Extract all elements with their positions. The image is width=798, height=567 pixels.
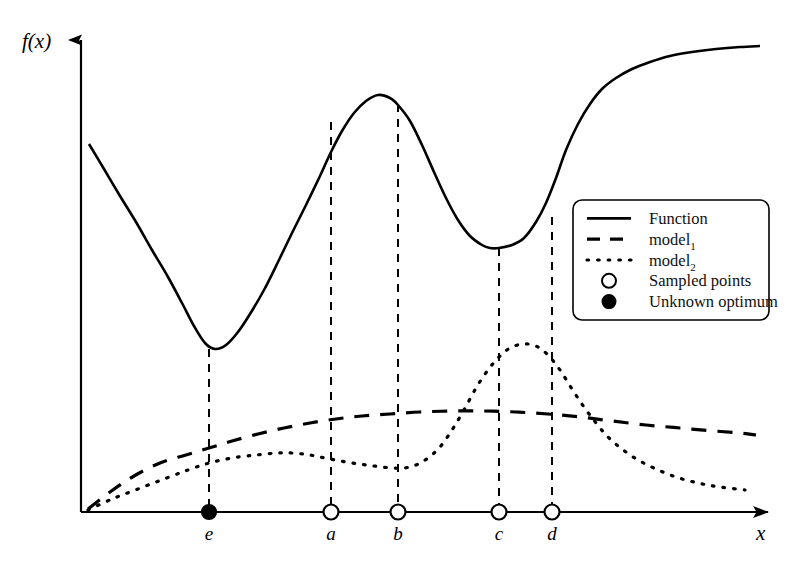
tick-label-c: c	[495, 523, 504, 544]
legend-label: Function	[649, 209, 708, 228]
legend-box: Functionmodel1model2Sampled pointsUnknow…	[573, 200, 778, 320]
curve-model1	[88, 411, 756, 509]
legend-label: Unknown optimum	[649, 292, 778, 311]
tick-label-b: b	[393, 523, 403, 544]
function-plot: eabcd f(x) x Functionmodel1model2Sampled…	[0, 0, 798, 567]
legend-label: model1	[649, 230, 696, 252]
marker-d[interactable]	[545, 505, 560, 520]
y-axis-label: f(x)	[22, 29, 51, 53]
marker-a[interactable]	[324, 505, 339, 520]
legend-label-subscript: 1	[690, 240, 696, 252]
legend-label: Sampled points	[649, 271, 751, 290]
legend-swatch-open-circle	[602, 274, 616, 288]
curve-model2	[88, 344, 745, 510]
tick-label-group: eabcd	[205, 523, 557, 544]
tick-label-d: d	[547, 523, 557, 544]
legend-label: model2	[649, 251, 696, 273]
tick-label-e: e	[205, 523, 213, 544]
sample-guide-lines	[209, 104, 552, 512]
marker-e[interactable]	[202, 505, 216, 519]
legend-swatch-filled-circle	[603, 295, 616, 308]
marker-b[interactable]	[391, 505, 406, 520]
marker-c[interactable]	[492, 505, 507, 520]
tick-label-a: a	[326, 523, 336, 544]
figure-canvas: eabcd f(x) x Functionmodel1model2Sampled…	[0, 0, 798, 567]
x-axis-label: x	[755, 521, 766, 545]
